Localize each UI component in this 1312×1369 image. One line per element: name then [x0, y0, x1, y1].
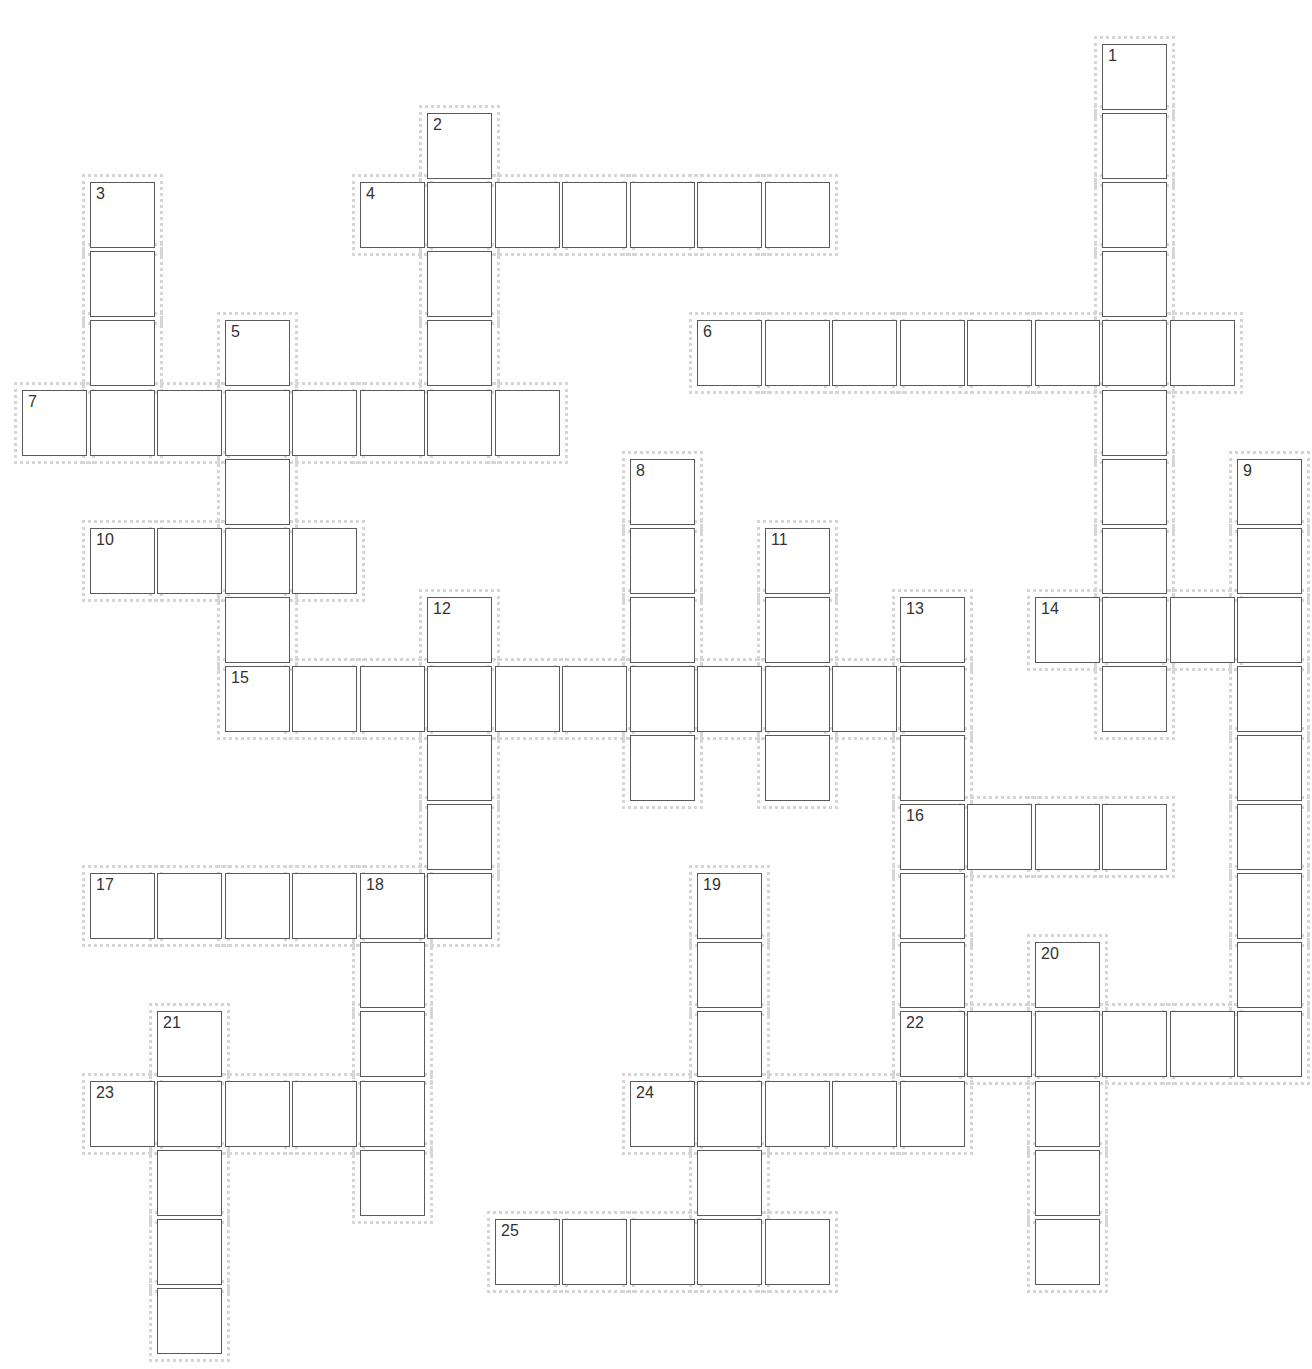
- crossword-cell[interactable]: [697, 182, 762, 248]
- crossword-cell[interactable]: [630, 597, 695, 663]
- crossword-cell[interactable]: [765, 735, 830, 801]
- crossword-cell[interactable]: [1237, 804, 1302, 870]
- crossword-cell[interactable]: [427, 251, 492, 317]
- crossword-cell[interactable]: [1102, 113, 1167, 179]
- crossword-cell[interactable]: [967, 320, 1032, 386]
- crossword-cell[interactable]: [1102, 251, 1167, 317]
- crossword-cell[interactable]: [697, 1011, 762, 1077]
- crossword-cell[interactable]: 3: [90, 182, 155, 248]
- crossword-cell[interactable]: [1237, 528, 1302, 594]
- crossword-cell[interactable]: [225, 528, 290, 594]
- crossword-cell[interactable]: [1035, 1081, 1100, 1147]
- crossword-cell[interactable]: [1102, 1011, 1167, 1077]
- crossword-cell[interactable]: 4: [360, 182, 425, 248]
- crossword-cell[interactable]: 19: [697, 873, 762, 939]
- crossword-cell[interactable]: [225, 1081, 290, 1147]
- crossword-cell[interactable]: [90, 251, 155, 317]
- crossword-cell[interactable]: [1237, 597, 1302, 663]
- crossword-cell[interactable]: [832, 1081, 897, 1147]
- crossword-cell[interactable]: [900, 320, 965, 386]
- crossword-cell[interactable]: [427, 735, 492, 801]
- crossword-cell[interactable]: 11: [765, 528, 830, 594]
- crossword-cell[interactable]: [765, 1081, 830, 1147]
- crossword-cell[interactable]: 20: [1035, 942, 1100, 1008]
- crossword-cell[interactable]: 16: [900, 804, 965, 870]
- crossword-cell[interactable]: [1102, 459, 1167, 525]
- crossword-cell[interactable]: [765, 597, 830, 663]
- crossword-cell[interactable]: 25: [495, 1219, 560, 1285]
- crossword-cell[interactable]: [360, 390, 425, 456]
- crossword-cell[interactable]: [225, 873, 290, 939]
- crossword-cell[interactable]: [562, 1219, 627, 1285]
- crossword-cell[interactable]: [157, 390, 222, 456]
- crossword-cell[interactable]: 9: [1237, 459, 1302, 525]
- crossword-cell[interactable]: [1102, 182, 1167, 248]
- crossword-cell[interactable]: [1237, 666, 1302, 732]
- crossword-cell[interactable]: [900, 1081, 965, 1147]
- crossword-cell[interactable]: [225, 390, 290, 456]
- crossword-cell[interactable]: [765, 182, 830, 248]
- crossword-cell[interactable]: 13: [900, 597, 965, 663]
- crossword-cell[interactable]: 23: [90, 1081, 155, 1147]
- crossword-cell[interactable]: [1035, 804, 1100, 870]
- crossword-cell[interactable]: [292, 666, 357, 732]
- crossword-cell[interactable]: [292, 528, 357, 594]
- crossword-cell[interactable]: 2: [427, 113, 492, 179]
- crossword-cell[interactable]: 15: [225, 666, 290, 732]
- crossword-cell[interactable]: 12: [427, 597, 492, 663]
- crossword-cell[interactable]: [1102, 390, 1167, 456]
- crossword-cell[interactable]: [630, 528, 695, 594]
- crossword-cell[interactable]: [1237, 735, 1302, 801]
- crossword-cell[interactable]: [832, 666, 897, 732]
- crossword-cell[interactable]: [765, 666, 830, 732]
- crossword-cell[interactable]: [427, 666, 492, 732]
- crossword-cell[interactable]: [900, 873, 965, 939]
- crossword-cell[interactable]: [697, 1219, 762, 1285]
- crossword-cell[interactable]: [562, 182, 627, 248]
- crossword-cell[interactable]: [427, 320, 492, 386]
- crossword-cell[interactable]: [1170, 1011, 1235, 1077]
- crossword-cell[interactable]: [1102, 666, 1167, 732]
- crossword-cell[interactable]: [90, 390, 155, 456]
- crossword-cell[interactable]: [157, 1150, 222, 1216]
- crossword-cell[interactable]: [562, 666, 627, 732]
- crossword-cell[interactable]: 17: [90, 873, 155, 939]
- crossword-cell[interactable]: [427, 873, 492, 939]
- crossword-cell[interactable]: [1102, 804, 1167, 870]
- crossword-cell[interactable]: 5: [225, 320, 290, 386]
- crossword-cell[interactable]: [225, 597, 290, 663]
- crossword-cell[interactable]: [360, 1081, 425, 1147]
- crossword-cell[interactable]: [90, 320, 155, 386]
- crossword-cell[interactable]: [967, 804, 1032, 870]
- crossword-cell[interactable]: [1035, 1219, 1100, 1285]
- crossword-cell[interactable]: 24: [630, 1081, 695, 1147]
- crossword-cell[interactable]: [495, 666, 560, 732]
- crossword-cell[interactable]: [1102, 320, 1167, 386]
- crossword-cell[interactable]: [225, 459, 290, 525]
- crossword-cell[interactable]: [900, 666, 965, 732]
- crossword-cell[interactable]: [697, 1081, 762, 1147]
- crossword-cell[interactable]: [630, 735, 695, 801]
- crossword-cell[interactable]: [697, 666, 762, 732]
- crossword-cell[interactable]: [630, 666, 695, 732]
- crossword-cell[interactable]: [697, 1150, 762, 1216]
- crossword-cell[interactable]: [765, 1219, 830, 1285]
- crossword-cell[interactable]: 22: [900, 1011, 965, 1077]
- crossword-cell[interactable]: [1035, 320, 1100, 386]
- crossword-cell[interactable]: 18: [360, 873, 425, 939]
- crossword-cell[interactable]: [360, 1011, 425, 1077]
- crossword-cell[interactable]: [292, 390, 357, 456]
- crossword-cell[interactable]: 14: [1035, 597, 1100, 663]
- crossword-cell[interactable]: [1102, 528, 1167, 594]
- crossword-cell[interactable]: [1170, 320, 1235, 386]
- crossword-cell[interactable]: [292, 873, 357, 939]
- crossword-cell[interactable]: [1035, 1150, 1100, 1216]
- crossword-cell[interactable]: [360, 1150, 425, 1216]
- crossword-cell[interactable]: [427, 390, 492, 456]
- crossword-cell[interactable]: [967, 1011, 1032, 1077]
- crossword-cell[interactable]: [427, 804, 492, 870]
- crossword-cell[interactable]: [1237, 1011, 1302, 1077]
- crossword-cell[interactable]: 1: [1102, 44, 1167, 110]
- crossword-cell[interactable]: 10: [90, 528, 155, 594]
- crossword-cell[interactable]: [1035, 1011, 1100, 1077]
